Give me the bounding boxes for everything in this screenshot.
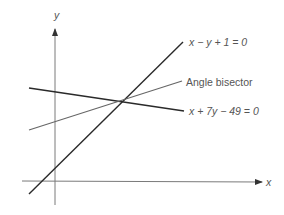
- line-x-plus-7y-minus-49: [29, 88, 184, 111]
- x-axis: [22, 181, 262, 182]
- line-2-equation-label: x + 7y − 49 = 0: [188, 105, 259, 117]
- x-axis-label: x: [265, 176, 272, 188]
- line-1-equation-label: x − y + 1 = 0: [188, 36, 247, 48]
- angle-bisector-line: [29, 81, 182, 130]
- y-axis-label: y: [53, 9, 60, 21]
- line-x-minus-y-plus-1: [29, 42, 183, 194]
- angle-bisector-diagram: y x x − y + 1 = 0 x + 7y − 49 = 0 Angle …: [0, 0, 284, 215]
- angle-bisector-label: Angle bisector: [186, 76, 253, 88]
